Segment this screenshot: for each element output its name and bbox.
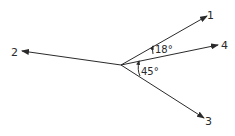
vector-diagram-canvas: 1 2 3 4 18° 45° (0, 0, 235, 136)
vector-2-line (22, 51, 121, 65)
vector-3-label: 3 (205, 115, 212, 128)
vector-1-line (121, 16, 207, 65)
angle-45-arc-icon (138, 61, 140, 76)
angle-18-label: 18° (155, 44, 173, 55)
vector-2-label: 2 (11, 46, 18, 59)
vector-diagram: 1 2 3 4 18° 45° (0, 0, 235, 136)
angle-45-label: 45° (141, 66, 159, 77)
vector-1-label: 1 (207, 9, 214, 22)
vector-4-label: 4 (221, 39, 228, 52)
vector-3-line (121, 65, 204, 118)
angle-18-arc-icon (153, 46, 154, 54)
